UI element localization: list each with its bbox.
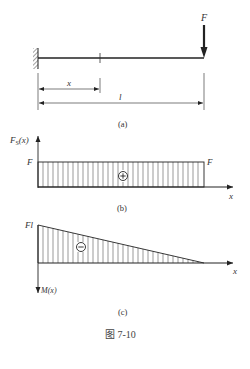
panel-a-beam: F x l (a) xyxy=(33,12,208,129)
moment-y-axis-label: M(x) xyxy=(40,286,57,295)
panel-c-moment-diagram: Fl x M(x) (c) xyxy=(24,220,237,317)
force-label: F xyxy=(200,12,208,23)
panel-c-caption: (c) xyxy=(118,307,128,317)
force-arrow-icon xyxy=(201,25,208,58)
panel-a-caption: (a) xyxy=(118,119,128,129)
dim-x-label: x xyxy=(66,78,71,88)
shear-left-value-label: F xyxy=(26,157,33,167)
figure-caption: 图 7-10 xyxy=(105,329,136,340)
positive-sign-icon xyxy=(119,172,128,181)
fixed-support-wall xyxy=(33,48,38,69)
negative-sign-icon xyxy=(77,243,86,252)
shear-x-axis-label: x xyxy=(228,191,233,201)
cantilever-beam-diagram: F x l (a) xyxy=(0,0,250,369)
shear-y-axis-label: FS(x) xyxy=(9,135,29,146)
moment-max-value-label: Fl xyxy=(24,220,33,230)
panel-b-shear-diagram: FS(x) F F x (b) xyxy=(9,135,233,213)
dim-l-label: l xyxy=(119,92,122,102)
shear-right-value-label: F xyxy=(206,157,213,167)
moment-x-axis-label: x xyxy=(232,266,237,276)
panel-b-caption: (b) xyxy=(117,203,127,213)
